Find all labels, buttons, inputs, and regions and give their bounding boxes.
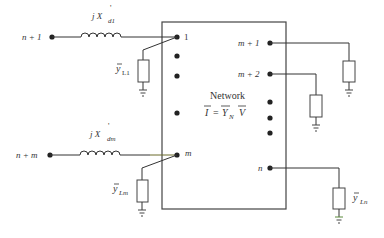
external-node-label: n + 1 [22, 32, 42, 42]
load-label: y Lm [112, 183, 128, 197]
svg-text:=: = [213, 107, 219, 118]
svg-text:y: y [115, 63, 121, 74]
svg-text:j X: j X [89, 129, 101, 139]
load-node-label: n [258, 163, 263, 173]
svg-text:L1: L1 [122, 69, 130, 77]
svg-text:y: y [352, 192, 358, 203]
svg-text:y: y [112, 183, 118, 194]
ground-icon [312, 125, 320, 131]
ground-icon [335, 217, 343, 223]
svg-text:dm: dm [107, 135, 116, 143]
ground-icon [345, 90, 353, 96]
node-dot [174, 73, 179, 78]
reactance-label: j X ' d1 [91, 4, 115, 25]
svg-text:j X: j X [91, 11, 103, 21]
node-dot [174, 110, 179, 115]
ground-icon [138, 210, 146, 216]
load-admittance-icon [138, 60, 149, 82]
node-dot [174, 53, 179, 58]
node-dot [267, 115, 272, 120]
load-node-label: m + 1 [238, 38, 260, 48]
svg-text:d1: d1 [108, 17, 115, 25]
load-admittance-icon [310, 95, 322, 117]
internal-node-label: 1 [184, 32, 189, 42]
node-dot [267, 99, 272, 104]
inductor-icon [81, 33, 121, 37]
svg-text:': ' [110, 4, 112, 13]
svg-text:Ln: Ln [359, 198, 368, 206]
svg-text:N: N [228, 113, 234, 121]
internal-node-label: m [185, 148, 192, 158]
load-label: y L1 [115, 63, 130, 77]
svg-text:I: I [204, 107, 209, 118]
network-label: Network [210, 90, 245, 101]
network-diagram: Network I = Y N V n + 1 j X ' d1 1 [0, 0, 384, 238]
load-admittance-icon [343, 61, 355, 82]
external-node-label: n + m [16, 150, 38, 160]
inductor-icon [80, 151, 120, 155]
node-dot [267, 130, 272, 135]
svg-text:': ' [108, 122, 110, 131]
load-admittance-icon [333, 188, 345, 209]
ground-icon [139, 90, 147, 96]
load-admittance-icon [137, 180, 148, 202]
reactance-label: j X ' dm [89, 122, 116, 143]
load-label: y Ln [352, 192, 368, 206]
load-node-label: m + 2 [238, 69, 260, 79]
svg-text:Lm: Lm [118, 189, 128, 197]
